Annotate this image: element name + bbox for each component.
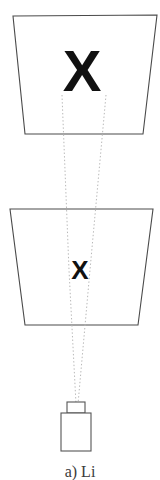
camera-lens-icon xyxy=(67,402,85,413)
near-plane-marker: X xyxy=(71,255,89,285)
caption-fragment: a) Li xyxy=(0,464,160,480)
camera-body-icon xyxy=(61,413,91,451)
far-plane-marker: X xyxy=(63,38,102,103)
